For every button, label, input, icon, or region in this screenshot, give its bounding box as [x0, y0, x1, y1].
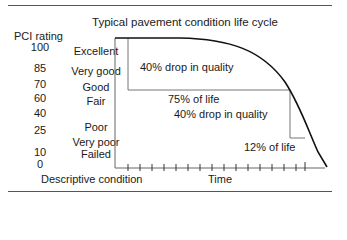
x-axis-ticks — [128, 162, 305, 171]
annotation-drop-2: 40% drop in quality — [174, 109, 268, 120]
bracket-12-percent — [290, 90, 305, 138]
x-axis-label: Time — [208, 174, 232, 185]
annotation-drop-1: 40% drop in quality — [140, 62, 234, 73]
x-axis-left-label: Descriptive condition — [41, 174, 143, 185]
annotation-life-75: 75% of life — [168, 94, 219, 105]
annotation-life-12: 12% of life — [244, 142, 295, 153]
